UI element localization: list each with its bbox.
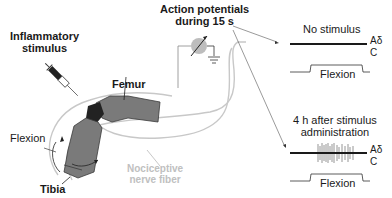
- panel2-c-label: C: [370, 156, 377, 167]
- stimulus-label: Inflammatory stimulus: [10, 30, 79, 54]
- flexion-left-label: Flexion: [10, 132, 45, 144]
- panel1-flexion-label: Flexion: [320, 68, 355, 80]
- panel2-title: 4 h after stimulus administration: [293, 114, 377, 138]
- panel1-c-label: C: [370, 47, 377, 58]
- syringe-icon: [42, 60, 80, 98]
- tibia-label: Tibia: [40, 183, 65, 195]
- panel2-title-line2: administration: [293, 126, 377, 138]
- ground-icon: [207, 46, 214, 56]
- femur-bone: [96, 96, 160, 122]
- recording-label-line2: during 15 s: [160, 15, 249, 27]
- panel2-adelta-label: Aδ: [370, 144, 382, 155]
- nerve-label-line2: nerve fiber: [127, 174, 183, 185]
- stimulus-label-line2: stimulus: [10, 42, 79, 54]
- panel1-title: No stimulus: [303, 23, 360, 35]
- panel2-flexion-label: Flexion: [320, 177, 355, 189]
- femur-label: Femur: [112, 78, 146, 90]
- nerve-label: Nociceptive nerve fiber: [127, 163, 183, 185]
- panel1-adelta-label: Aδ: [370, 35, 382, 46]
- recording-label: Action potentials during 15 s: [160, 3, 249, 27]
- recording-label-line1: Action potentials: [160, 3, 249, 15]
- nerve-label-line1: Nociceptive: [127, 163, 183, 174]
- panel2-title-line1: 4 h after stimulus: [293, 114, 377, 126]
- stimulus-label-line1: Inflammatory: [10, 30, 79, 42]
- tibia-bone: [64, 118, 102, 178]
